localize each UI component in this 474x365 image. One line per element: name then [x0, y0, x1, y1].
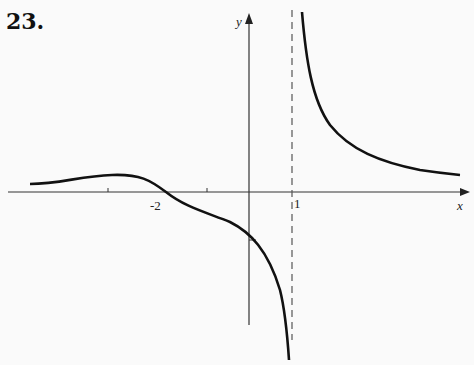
y-axis-arrow-icon [245, 13, 253, 24]
y-axis-label: y [234, 14, 242, 29]
right-branch [302, 12, 460, 175]
tick-label-neg2: -2 [150, 198, 161, 213]
graph: -2 1 x y [0, 0, 474, 365]
figure: 23. -2 1 x y [0, 0, 474, 365]
x-axis-label: x [456, 198, 463, 213]
x-axis-arrow-icon [460, 188, 470, 196]
tick-label-1: 1 [294, 196, 301, 211]
